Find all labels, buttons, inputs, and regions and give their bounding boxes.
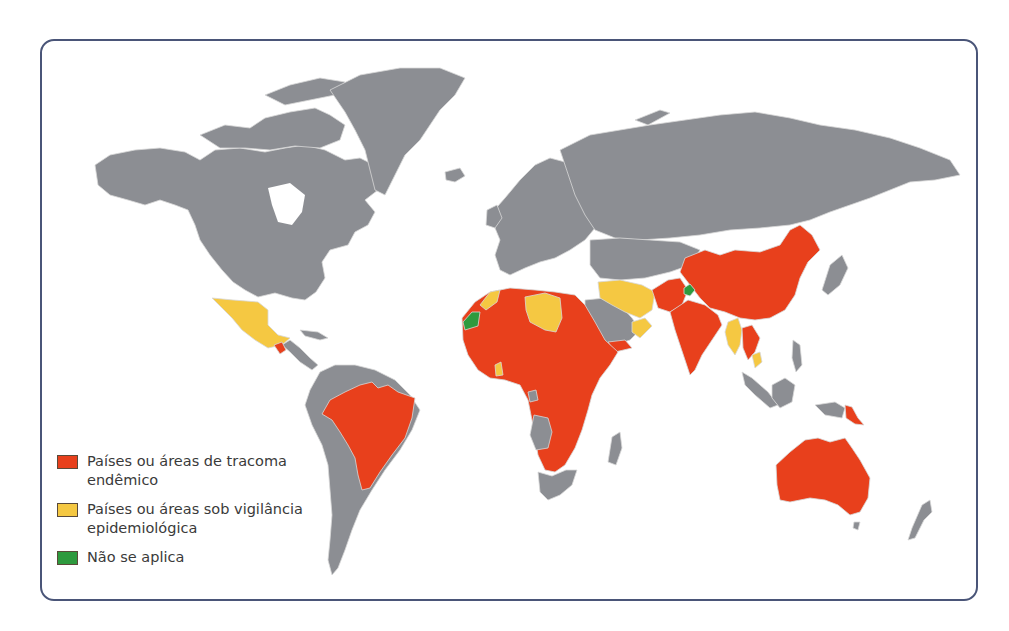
- region-vietnam-south: [752, 352, 762, 368]
- region-caribbean: [300, 330, 328, 340]
- region-iceland: [445, 168, 465, 182]
- region-myanmar: [725, 318, 742, 355]
- legend-label-endemic: Países ou áreas de tracoma endêmico: [87, 452, 357, 490]
- region-png: [845, 405, 864, 425]
- region-mexico: [212, 298, 290, 348]
- legend-label-not-applicable: Não se aplica: [87, 548, 184, 567]
- region-arctic-islands: [200, 108, 345, 150]
- region-madagascar: [608, 432, 622, 465]
- region-philippines: [792, 340, 802, 372]
- region-new-guinea-west: [815, 402, 845, 418]
- legend-item-not-applicable: Não se aplica: [57, 548, 357, 567]
- region-japan: [822, 255, 848, 295]
- surveillance-swatch: [57, 503, 78, 517]
- region-gabon: [528, 390, 538, 402]
- region-india: [670, 300, 722, 375]
- map-legend: Países ou áreas de tracoma endêmico País…: [57, 452, 357, 577]
- region-north-america: [95, 145, 392, 300]
- endemic-swatch: [57, 455, 78, 469]
- region-south-africa: [538, 470, 577, 500]
- region-tasmania: [853, 522, 860, 530]
- region-central-america: [282, 340, 318, 370]
- not-applicable-swatch: [57, 551, 78, 565]
- region-new-zealand: [908, 500, 932, 540]
- legend-item-surveillance: Países ou áreas sob vigilância epidemiol…: [57, 500, 357, 538]
- region-angola: [530, 415, 552, 450]
- legend-label-surveillance: Países ou áreas sob vigilância epidemiol…: [87, 500, 357, 538]
- region-russia: [560, 112, 960, 240]
- region-australia: [776, 438, 870, 515]
- legend-item-endemic: Países ou áreas de tracoma endêmico: [57, 452, 357, 490]
